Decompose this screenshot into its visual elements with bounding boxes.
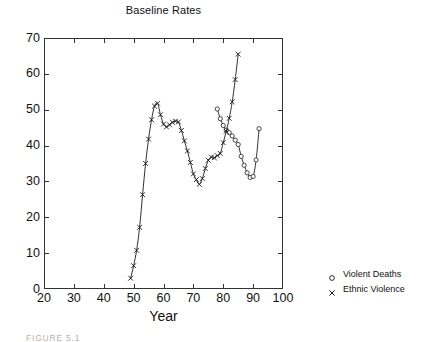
y-tick-label: 10 <box>14 247 40 260</box>
y-tick-label: 30 <box>14 175 40 188</box>
legend-item: Violent Deaths <box>327 266 431 281</box>
figure-caption: FIGURE 5.1 <box>26 333 80 342</box>
x-tick-label: 30 <box>67 292 81 305</box>
y-tick-label: 70 <box>14 32 40 45</box>
y-tick-label: 40 <box>14 139 40 152</box>
series-ethnic-violence <box>128 52 240 281</box>
x-tick-label: 100 <box>273 292 294 305</box>
y-tick-label: 60 <box>14 67 40 80</box>
x-tick-label: 90 <box>246 292 260 305</box>
x-axis-tick-labels: 2030405060708090100 <box>44 292 283 308</box>
x-tick-label: 60 <box>157 292 171 305</box>
chart-canvas <box>44 38 283 289</box>
chart-legend: Violent DeathsEthnic Violence <box>327 266 431 296</box>
circle-marker-icon <box>327 269 337 279</box>
cross-marker-icon <box>327 284 337 294</box>
x-tick-label: 40 <box>97 292 111 305</box>
axis-tick-marks <box>44 38 283 289</box>
legend-label: Ethnic Violence <box>343 284 405 294</box>
axis-frame <box>45 39 283 289</box>
chart-title: Baseline Rates <box>44 4 283 16</box>
x-tick-label: 20 <box>37 292 51 305</box>
y-tick-label: 20 <box>14 211 40 224</box>
plot-area <box>44 38 283 289</box>
legend-label: Violent Deaths <box>343 269 401 279</box>
x-tick-label: 70 <box>186 292 200 305</box>
x-tick-label: 50 <box>127 292 141 305</box>
x-tick-label: 80 <box>216 292 230 305</box>
x-axis-title: Year <box>44 308 283 324</box>
y-tick-label: 50 <box>14 103 40 116</box>
y-axis-tick-labels: 010203040506070 <box>10 38 40 289</box>
legend-item: Ethnic Violence <box>327 281 431 296</box>
figure-container: Baseline Rates 010203040506070 203040506… <box>0 0 435 342</box>
data-series-layer <box>128 52 261 281</box>
